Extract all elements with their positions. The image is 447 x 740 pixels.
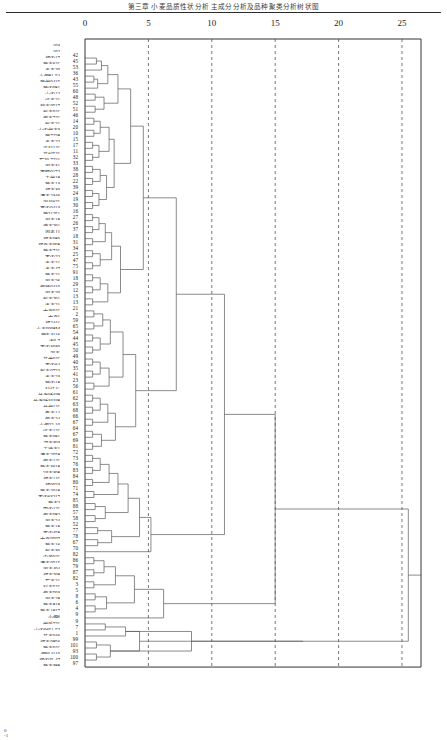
dendrogram-figure: 第三章 小麦品质性状分析 主成分分析及品种聚类分析树状图 0510152025 … (0, 0, 447, 740)
figure-footnote: 0-1 (4, 728, 8, 738)
dendrogram-tree (0, 0, 447, 740)
